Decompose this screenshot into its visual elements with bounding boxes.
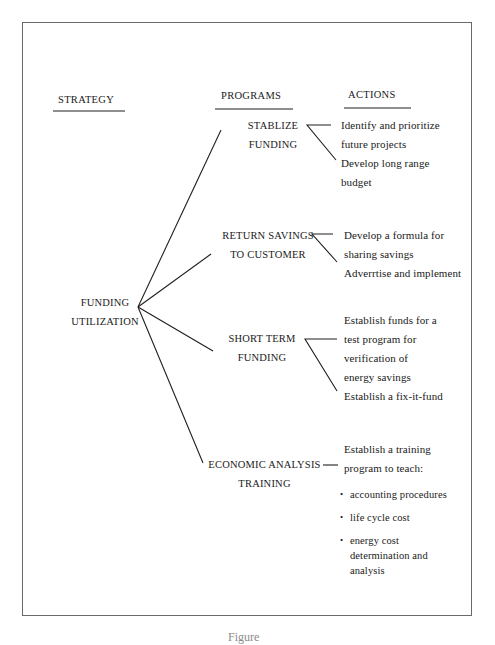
actions-short-term-funding: Establish funds for a test program for v… [344, 311, 443, 406]
short-term-actions-fork [305, 339, 337, 391]
training-topics-list: accounting procedures life cycle cost en… [340, 487, 447, 578]
action-line: sharing savings [344, 245, 461, 264]
action-line: Establish funds for a [344, 311, 443, 330]
actions-return-savings: Develop a formula for sharing savings Ad… [344, 226, 461, 283]
training-topic: life cycle cost [340, 510, 447, 525]
training-topic: energy cost determination and analysis [340, 533, 447, 578]
program-line: STABLIZE [228, 116, 318, 135]
program-node-economic-analysis: ECONOMIC ANALYSIS TRAINING [207, 455, 322, 493]
action-line: Establish a fix-it-fund [344, 387, 443, 406]
topic-line: determination and [350, 548, 447, 563]
branch-short-term [138, 307, 213, 351]
branch-return-savings [138, 254, 211, 307]
topic-line: accounting procedures [350, 489, 447, 500]
program-line: FUNDING [228, 135, 318, 154]
topic-line: energy cost [350, 533, 447, 548]
action-line: test program for [344, 330, 443, 349]
action-line: Establish a training [344, 440, 431, 459]
program-line: TO CUSTOMER [213, 245, 323, 264]
program-line: FUNDING [222, 348, 302, 367]
action-line: future projects [341, 135, 440, 154]
header-actions: ACTIONS [348, 89, 396, 100]
action-line: Develop long range [341, 154, 440, 173]
figure-caption: Figure [228, 630, 259, 645]
branch-economic [138, 307, 203, 463]
branch-stabilize [138, 130, 221, 307]
strategy-node: FUNDING UTILIZATION [70, 293, 140, 331]
action-line: energy savings [344, 368, 443, 387]
strategy-line-1: FUNDING [70, 293, 140, 312]
training-topic: accounting procedures [340, 487, 447, 502]
action-line: verification of [344, 349, 443, 368]
action-line: Adverrtise and implement [344, 264, 461, 283]
program-line: ECONOMIC ANALYSIS [207, 455, 322, 474]
topic-line: life cycle cost [350, 512, 410, 523]
action-line: program to teach: [344, 459, 431, 478]
program-node-stabilize-funding: STABLIZE FUNDING [228, 116, 318, 154]
program-line: TRAINING [207, 474, 322, 493]
header-strategy: STRATEGY [58, 94, 114, 105]
actions-stabilize-funding: Identify and prioritize future projects … [341, 116, 440, 192]
action-line: budget [341, 173, 440, 192]
action-line: Identify and prioritize [341, 116, 440, 135]
action-line: Develop a formula for [344, 226, 461, 245]
program-line: SHORT TERM [222, 329, 302, 348]
topic-line: analysis [350, 563, 447, 578]
header-programs: PROGRAMS [221, 90, 281, 101]
program-line: RETURN SAVINGS [213, 226, 323, 245]
actions-economic-analysis: Establish a training program to teach: [344, 440, 431, 478]
strategy-line-2: UTILIZATION [70, 312, 140, 331]
program-node-short-term-funding: SHORT TERM FUNDING [222, 329, 302, 367]
program-node-return-savings: RETURN SAVINGS TO CUSTOMER [213, 226, 323, 264]
